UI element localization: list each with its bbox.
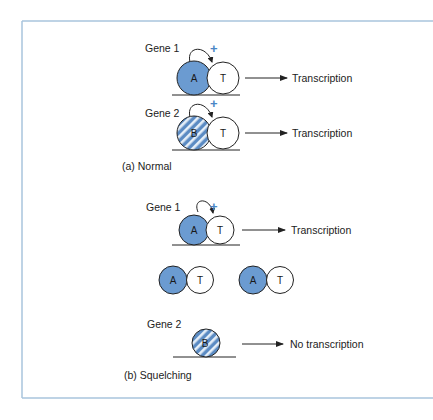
panel-b-gene2: Gene 2 B No transcription (147, 318, 364, 357)
activator-label: B (202, 338, 209, 349)
activator-label: A (170, 275, 177, 286)
panel-a-gene2: Gene 2 + B T Transcription (145, 96, 352, 150)
squelching-diagram: Gene 1 + A T Transcription Gene 2 + B T … (0, 0, 433, 420)
result-label: Transcription (292, 127, 352, 139)
panel-b-caption: (b) Squelching (124, 369, 192, 381)
result-label: Transcription (291, 224, 351, 236)
free-complex-2: A T (239, 266, 294, 294)
activator-label: A (191, 225, 198, 236)
activator-label: A (250, 275, 257, 286)
panel-a-gene1: Gene 1 + A T Transcription (145, 41, 352, 95)
tf-label: T (220, 73, 226, 84)
result-label: Transcription (292, 72, 352, 84)
gene2-label: Gene 2 (147, 318, 182, 330)
tf-label: T (277, 275, 283, 286)
gene2-label: Gene 2 (145, 107, 180, 119)
activation-arrow-icon (189, 49, 212, 62)
gene1-label: Gene 1 (146, 201, 181, 213)
plus-sign: + (210, 96, 218, 111)
activator-label: B (191, 128, 198, 139)
tf-label: T (217, 225, 223, 236)
result-label: No transcription (290, 338, 364, 350)
activation-arrow-icon (189, 104, 212, 117)
plus-sign: + (210, 199, 218, 214)
panel-b-gene1: Gene 1 + A T Transcription (146, 199, 351, 245)
tf-label: T (220, 128, 226, 139)
plus-sign: + (210, 41, 218, 56)
tf-label: T (197, 275, 203, 286)
gene1-label: Gene 1 (145, 42, 180, 54)
free-complex-1: A T (159, 266, 214, 294)
activator-label: A (191, 73, 198, 84)
panel-a-caption: (a) Normal (122, 160, 172, 172)
